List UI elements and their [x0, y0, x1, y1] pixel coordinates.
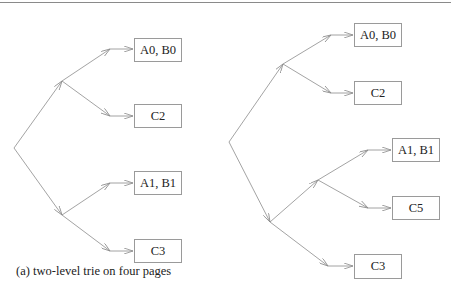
page-label: C5 [409, 201, 424, 216]
page-label: C3 [371, 259, 386, 274]
page-label: A0, B0 [140, 43, 176, 58]
page-box-c2: C2 [134, 104, 182, 128]
page-label: A1, B1 [398, 143, 434, 158]
page-box-c2: C2 [354, 81, 402, 105]
page-box-c3: C3 [354, 254, 402, 279]
page-box-a0-b0: A0, B0 [354, 23, 402, 47]
page-box-a1-b1: A1, B1 [134, 171, 182, 195]
page-box-a1-b1: A1, B1 [392, 138, 440, 162]
diagram-b-edges [229, 35, 391, 266]
page-box-c3: C3 [134, 239, 182, 263]
page-box-c5: C5 [392, 196, 440, 220]
page-label: C3 [151, 244, 166, 259]
diagram-a-edges [14, 49, 133, 251]
page-label: A1, B1 [140, 176, 176, 191]
page-label: C2 [371, 86, 386, 101]
page-label: A0, B0 [360, 28, 396, 43]
page-box-a0-b0: A0, B0 [134, 38, 182, 62]
page-label: C2 [151, 109, 166, 124]
diagram-a-caption: (a) two-level trie on four pages [16, 264, 171, 279]
